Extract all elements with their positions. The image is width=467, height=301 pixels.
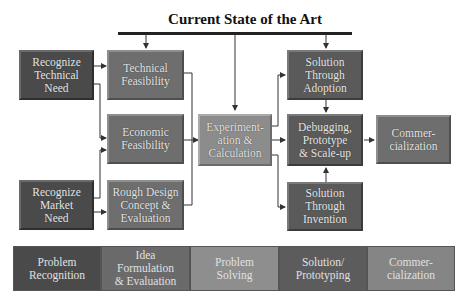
phase-commercialization: Commer- cialization xyxy=(367,246,455,291)
debugging-prototype-box: Debugging, Prototype & Scale-up xyxy=(287,114,363,166)
technical-feasibility-box: Technical Feasibility xyxy=(107,50,184,100)
phase-idea-formulation: Idea Formulation & Evaluation xyxy=(101,246,190,291)
phase-solution-prototyping: Solution/ Prototyping xyxy=(279,246,367,291)
experimentation-box: Experiment- ation & Calculation xyxy=(198,114,272,166)
commercialization-box: Commer- cialization xyxy=(376,115,451,164)
rough-design-box: Rough Design Concept & Evaluation xyxy=(107,180,184,230)
solution-through-adoption-box: Solution Through Adoption xyxy=(287,50,363,100)
recognize-market-need-box: Recognize Market Need xyxy=(19,180,94,230)
phase-problem-recognition: Problem Recognition xyxy=(13,246,101,291)
recognize-technical-need-box: Recognize Technical Need xyxy=(19,50,94,100)
solution-through-invention-box: Solution Through Invention xyxy=(287,182,363,231)
phase-problem-solving: Problem Solving xyxy=(190,246,279,291)
economic-feasibility-box: Economic Feasibility xyxy=(107,114,184,164)
